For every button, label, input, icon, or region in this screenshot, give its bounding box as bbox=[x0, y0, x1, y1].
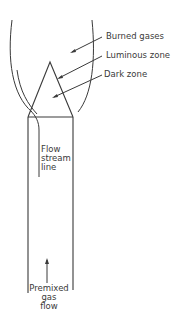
flow-stream-line bbox=[30, 110, 39, 177]
label-luminous-zone: Luminous zone bbox=[106, 51, 170, 60]
leader-dark-zone bbox=[54, 75, 102, 97]
label-burned-gases: Burned gases bbox=[106, 32, 164, 41]
luminous-cone bbox=[28, 62, 73, 117]
arrow-head-dark-zone bbox=[52, 94, 58, 98]
label-premixed-gas-flow: Premixed gas flow bbox=[29, 284, 69, 311]
leader-luminous-zone bbox=[59, 56, 102, 78]
arrow-head-burned-gases bbox=[70, 49, 76, 53]
flame-diagram bbox=[0, 0, 173, 319]
arrow-head-luminous-zone bbox=[57, 75, 63, 79]
label-flow-stream-line: Flow stream line bbox=[41, 145, 71, 172]
leader-burned-gases bbox=[72, 37, 102, 52]
arrow-head-premixed-flow bbox=[45, 258, 49, 264]
label-dark-zone: Dark zone bbox=[104, 70, 147, 79]
